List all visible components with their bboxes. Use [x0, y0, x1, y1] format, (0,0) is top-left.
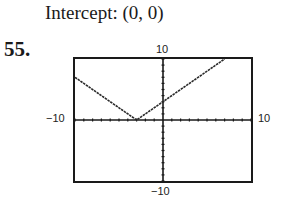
graph-window: [0, 0, 281, 208]
function-graph: [75, 59, 225, 120]
axes: [75, 59, 251, 181]
